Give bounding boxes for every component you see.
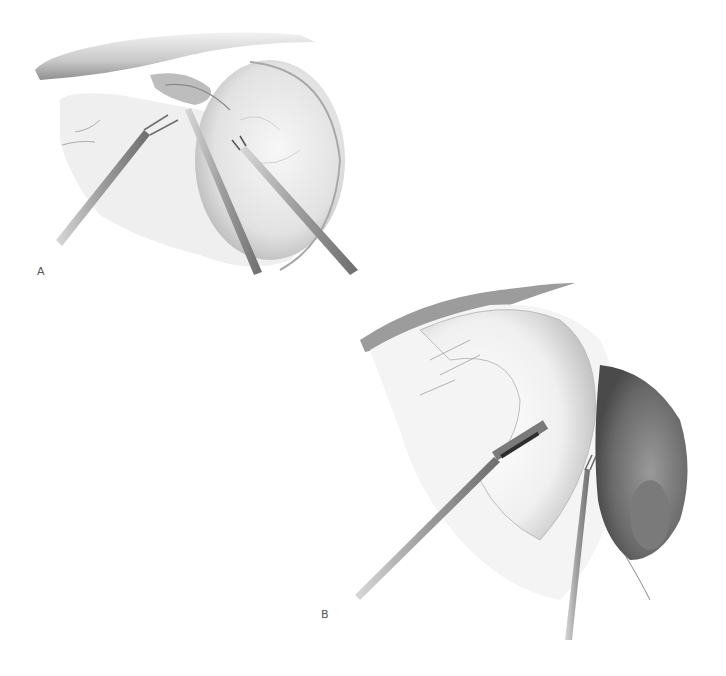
panel-label-b: B	[321, 608, 329, 621]
panel-label-a: A	[37, 265, 45, 278]
panel-b-illustration	[355, 283, 688, 640]
illustration-canvas	[0, 0, 726, 676]
surgical-illustration-figure: A B	[0, 0, 726, 676]
panel-a-illustration	[35, 32, 358, 275]
